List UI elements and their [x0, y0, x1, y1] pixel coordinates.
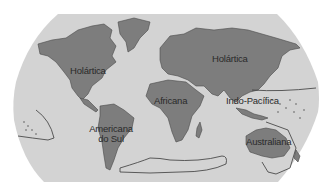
label-americana-line2: do Sul — [86, 134, 136, 144]
label-africana: Africana — [154, 96, 187, 106]
label-indo-pacifica: Indo-Pacífica — [226, 96, 279, 106]
label-americana-do-sul: Americana do Sul — [86, 124, 136, 144]
label-holartica-americas: Holártica — [70, 66, 106, 76]
label-holartica-eurasia: Holártica — [212, 54, 248, 64]
label-australiana: Australiana — [246, 137, 291, 147]
